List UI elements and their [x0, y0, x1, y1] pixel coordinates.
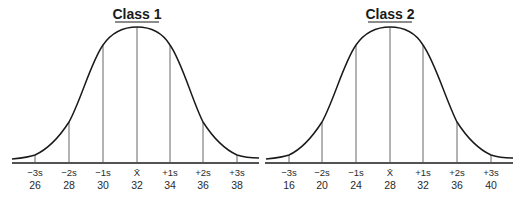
value-label: 36 [451, 179, 463, 191]
value-label: 36 [197, 179, 209, 191]
normal-curves-figure: Class 1 −3s −2s −1s X̄ +1s +2s +3s [0, 0, 523, 197]
sd-label: +2s [195, 167, 211, 178]
sd-label: +2s [449, 167, 465, 178]
sd-label: −2s [61, 167, 77, 178]
mean-label: X̄ [387, 167, 394, 178]
value-label: 26 [29, 179, 41, 191]
sd-label: +3s [483, 167, 499, 178]
chart-class-2: Class 2 −3s −2s −1s X̄ +1s +2s +3s 16 20… [265, 6, 513, 191]
value-label: 24 [350, 179, 362, 191]
sd-label: −2s [314, 167, 330, 178]
bell-curve [12, 27, 259, 159]
sd-label: −3s [27, 167, 43, 178]
sd-labels: −3s −2s −1s X̄ +1s +2s +3s [27, 167, 245, 178]
sd-label: −1s [95, 167, 111, 178]
sd-label: +1s [162, 167, 178, 178]
value-label: 28 [63, 179, 75, 191]
chart-title: Class 2 [365, 6, 414, 22]
value-label: 30 [97, 179, 109, 191]
sd-label: −1s [348, 167, 364, 178]
bell-curve [266, 27, 513, 159]
value-labels: 26 28 30 32 34 36 38 [29, 179, 243, 191]
value-label: 32 [131, 179, 143, 191]
value-label: 16 [283, 179, 295, 191]
value-label: 38 [231, 179, 243, 191]
value-label: 20 [316, 179, 328, 191]
value-label: 28 [384, 179, 396, 191]
sd-guide-lines [289, 27, 491, 163]
sd-label: +1s [415, 167, 431, 178]
chart-title: Class 1 [112, 6, 161, 22]
sd-label: −3s [281, 167, 297, 178]
value-label: 34 [164, 179, 176, 191]
sd-guide-lines [35, 27, 237, 163]
value-labels: 16 20 24 28 32 36 40 [283, 179, 497, 191]
sd-label: +3s [229, 167, 245, 178]
value-label: 40 [485, 179, 497, 191]
mean-label: X̄ [134, 167, 141, 178]
sd-labels: −3s −2s −1s X̄ +1s +2s +3s [281, 167, 499, 178]
chart-class-1: Class 1 −3s −2s −1s X̄ +1s +2s +3s [12, 6, 259, 191]
value-label: 32 [417, 179, 429, 191]
